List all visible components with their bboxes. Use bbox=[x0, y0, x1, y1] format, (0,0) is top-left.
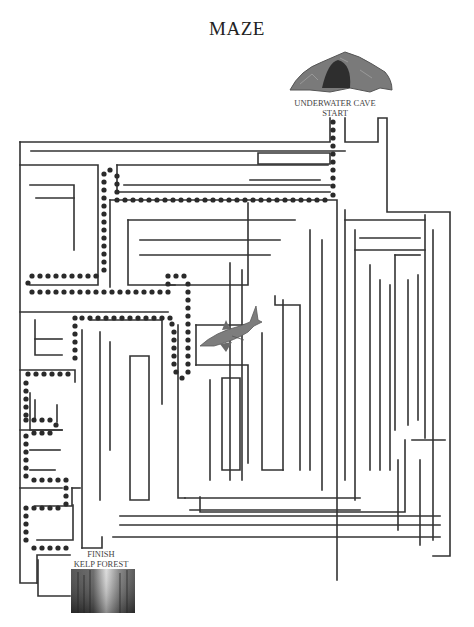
maze-wall bbox=[110, 200, 337, 580]
path-dot bbox=[31, 417, 36, 422]
path-dot bbox=[47, 545, 52, 550]
path-dot bbox=[242, 197, 247, 202]
solution-path bbox=[23, 119, 335, 550]
path-dot bbox=[122, 197, 127, 202]
path-dot bbox=[171, 345, 176, 350]
path-dot bbox=[55, 477, 60, 482]
path-dot bbox=[101, 227, 106, 232]
path-dot bbox=[165, 289, 170, 294]
path-dot bbox=[23, 433, 28, 438]
path-dot bbox=[29, 273, 34, 278]
path-dot bbox=[109, 289, 114, 294]
path-dot bbox=[39, 505, 44, 510]
path-dot bbox=[85, 289, 90, 294]
path-dot bbox=[234, 197, 239, 202]
path-dot bbox=[47, 505, 52, 510]
start-location-name: UNDERWATER CAVE bbox=[280, 98, 390, 108]
maze-wall bbox=[20, 142, 37, 583]
path-dot bbox=[45, 289, 50, 294]
path-dot bbox=[330, 175, 335, 180]
path-dot bbox=[101, 235, 106, 240]
maze-wall bbox=[82, 537, 102, 548]
path-dot bbox=[330, 143, 335, 148]
path-dot bbox=[202, 197, 207, 202]
path-dot bbox=[185, 353, 190, 358]
underwater-cave-icon bbox=[290, 52, 392, 92]
path-dot bbox=[23, 396, 28, 401]
path-dot bbox=[53, 422, 58, 427]
path-dot bbox=[61, 289, 66, 294]
maze-board[interactable] bbox=[0, 0, 474, 627]
path-dot bbox=[23, 441, 28, 446]
maze-wall bbox=[30, 185, 74, 250]
path-dot bbox=[23, 380, 28, 385]
finish-location-name: KELP FOREST bbox=[66, 559, 136, 569]
path-dot bbox=[101, 243, 106, 248]
maze-wall bbox=[178, 325, 185, 498]
path-dot bbox=[101, 195, 106, 200]
path-dot bbox=[127, 315, 132, 320]
path-dot bbox=[39, 430, 44, 435]
path-dot bbox=[23, 505, 28, 510]
path-dot bbox=[77, 273, 82, 278]
path-dot bbox=[72, 323, 77, 328]
path-dot bbox=[185, 361, 190, 366]
path-dot bbox=[31, 505, 36, 510]
path-dot bbox=[186, 197, 191, 202]
path-dot bbox=[63, 477, 68, 482]
path-dot bbox=[250, 197, 255, 202]
path-dot bbox=[141, 289, 146, 294]
path-dot bbox=[101, 203, 106, 208]
path-dot bbox=[169, 321, 174, 326]
path-dot bbox=[185, 369, 190, 374]
path-dot bbox=[69, 273, 74, 278]
path-dot bbox=[117, 289, 122, 294]
path-dot bbox=[266, 197, 271, 202]
start-text: START bbox=[280, 108, 390, 118]
path-dot bbox=[306, 197, 311, 202]
maze-wall bbox=[258, 153, 330, 164]
path-dot bbox=[37, 273, 42, 278]
path-dot bbox=[101, 259, 106, 264]
path-dot bbox=[119, 315, 124, 320]
path-dot bbox=[185, 329, 190, 334]
kelp-forest-image bbox=[71, 569, 135, 613]
maze-wall bbox=[275, 296, 300, 470]
path-dot bbox=[23, 473, 28, 478]
path-dot bbox=[72, 331, 77, 336]
path-dot bbox=[39, 477, 44, 482]
path-dot bbox=[171, 353, 176, 358]
path-dot bbox=[173, 369, 178, 374]
path-dot bbox=[173, 273, 178, 278]
path-dot bbox=[63, 493, 68, 498]
path-dot bbox=[138, 197, 143, 202]
path-dot bbox=[101, 187, 106, 192]
path-dot bbox=[85, 273, 90, 278]
path-dot bbox=[31, 545, 36, 550]
path-dot bbox=[179, 375, 184, 380]
path-dot bbox=[101, 289, 106, 294]
path-dot bbox=[57, 371, 62, 376]
path-dot bbox=[125, 289, 130, 294]
path-dot bbox=[171, 361, 176, 366]
path-dot bbox=[130, 197, 135, 202]
path-dot bbox=[23, 417, 28, 422]
path-dot bbox=[154, 197, 159, 202]
path-dot bbox=[185, 281, 190, 286]
path-dot bbox=[23, 404, 28, 409]
path-dot bbox=[111, 315, 116, 320]
path-dot bbox=[258, 197, 263, 202]
path-dot bbox=[114, 181, 119, 186]
path-dot bbox=[33, 371, 38, 376]
path-dot bbox=[210, 197, 215, 202]
path-dot bbox=[29, 289, 34, 294]
shark-icon bbox=[200, 306, 262, 352]
start-label: UNDERWATER CAVE START bbox=[280, 98, 390, 118]
maze-wall bbox=[130, 356, 149, 500]
path-dot bbox=[274, 197, 279, 202]
path-dot bbox=[185, 345, 190, 350]
maze-wall bbox=[20, 165, 98, 285]
path-dot bbox=[23, 537, 28, 542]
path-dot bbox=[114, 189, 119, 194]
path-dot bbox=[135, 315, 140, 320]
